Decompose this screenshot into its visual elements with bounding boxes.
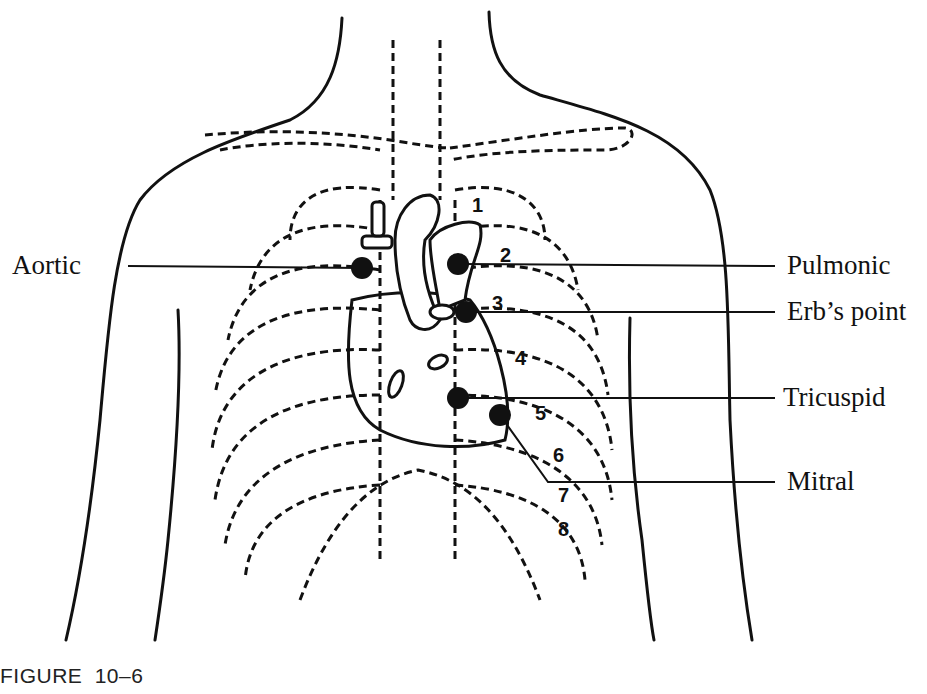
heart (348, 195, 507, 447)
chest-auscultation-diagram: 1 2 3 4 5 6 7 8 (0, 0, 927, 694)
erbs-point-marker (455, 301, 477, 323)
rib-number-2: 2 (500, 244, 511, 266)
figure-caption: FIGURE 10–6 (0, 664, 143, 688)
mitral-point (489, 404, 511, 426)
rib-number-7: 7 (558, 484, 569, 506)
label-erbs-point: Erb’s point (787, 298, 906, 325)
rib-number-6: 6 (553, 444, 564, 466)
tricuspid-point (447, 387, 469, 409)
label-tricuspid: Tricuspid (783, 384, 886, 411)
rib-number-8: 8 (558, 518, 569, 540)
rib-number-3: 3 (492, 292, 503, 314)
rib-number-4: 4 (515, 347, 527, 369)
rib-number-5: 5 (535, 402, 546, 424)
label-mitral: Mitral (787, 468, 855, 495)
auscultation-points (351, 253, 511, 426)
pulmonic-point (447, 253, 469, 275)
label-aortic: Aortic (12, 252, 81, 279)
rib-number-1: 1 (472, 194, 483, 216)
label-pulmonic: Pulmonic (787, 252, 891, 279)
aortic-point (351, 257, 373, 279)
torso-outline (66, 12, 752, 640)
